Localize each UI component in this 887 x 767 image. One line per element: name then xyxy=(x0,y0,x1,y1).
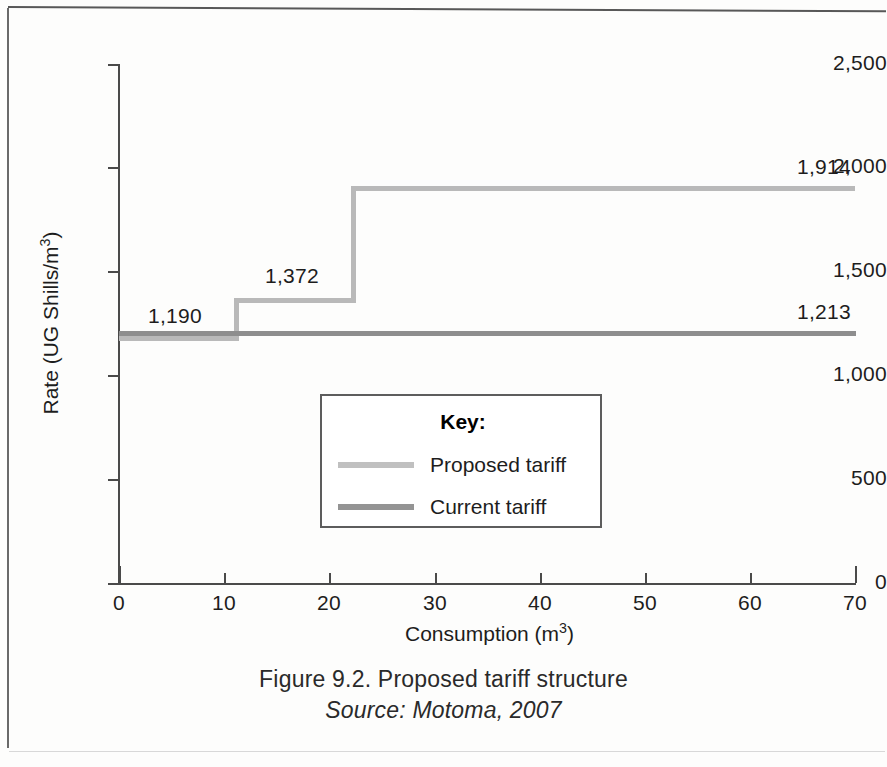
y-axis-title-suffix: ) xyxy=(39,232,62,239)
x-axis-title: Consumption (m3) xyxy=(0,620,887,646)
current-tariff-line xyxy=(119,331,856,336)
legend-entry-proposed-tariff: Proposed tariff xyxy=(338,450,588,480)
y-axis-line xyxy=(118,64,120,584)
proposed-tariff-segment-tier2 xyxy=(234,298,353,303)
proposed-tariff-riser-tier2-tier3 xyxy=(351,186,356,303)
figure-caption-title: Figure 9.2. Proposed tariff structure xyxy=(0,666,887,693)
x-axis-tick-label-60: 60 xyxy=(720,591,780,615)
x-axis-tick-60 xyxy=(750,573,752,583)
data-label-proposed-tier3: 1,914 xyxy=(797,155,851,179)
x-axis-tick-label-40: 40 xyxy=(510,591,570,615)
x-axis-tick-70 xyxy=(855,566,857,583)
legend-box: Key: Proposed tariff Current tariff xyxy=(320,394,602,528)
y-axis-tick-label-500: 500 xyxy=(787,466,887,490)
data-label-current-flat: 1,213 xyxy=(797,300,851,324)
y-axis-tick-1500 xyxy=(108,271,118,273)
x-axis-tick-label-0: 0 xyxy=(89,591,149,615)
legend-entry-current-tariff: Current tariff xyxy=(338,492,588,522)
data-label-proposed-tier2: 1,372 xyxy=(265,264,319,288)
y-axis-tick-2500 xyxy=(108,64,118,66)
proposed-tariff-segment-tier3 xyxy=(351,186,855,191)
legend-title: Key: xyxy=(322,410,604,434)
y-axis-tick-0 xyxy=(108,583,118,585)
x-axis-tick-50 xyxy=(645,573,647,583)
figure-caption-source: Source: Motoma, 2007 xyxy=(0,697,887,724)
y-axis-tick-500 xyxy=(108,479,118,481)
y-axis-title: Rate (UG Shills/m3) xyxy=(37,103,63,543)
x-axis-tick-10 xyxy=(224,573,226,583)
y-axis-tick-label-1500: 1,500 xyxy=(787,258,887,282)
legend-swatch-proposed-tariff xyxy=(338,462,414,468)
figure-caption: Figure 9.2. Proposed tariff structure So… xyxy=(0,666,887,724)
y-axis-tick-label-1000: 1,000 xyxy=(787,362,887,386)
y-axis-title-text: Rate (UG Shills/m xyxy=(39,246,62,414)
proposed-tariff-segment-tier1 xyxy=(119,336,236,341)
figure-page: 0 500 1,000 1,500 2,000 2,500 0 10 20 30… xyxy=(0,0,887,767)
legend-label-current-tariff: Current tariff xyxy=(430,495,546,519)
x-axis-tick-20 xyxy=(329,573,331,583)
x-axis-tick-30 xyxy=(435,573,437,583)
y-axis-tick-2000 xyxy=(108,167,118,169)
x-axis-tick-label-20: 20 xyxy=(299,591,359,615)
y-axis-tick-1000 xyxy=(108,375,118,377)
legend-swatch-current-tariff xyxy=(338,504,414,510)
x-axis-title-text: Consumption (m xyxy=(405,622,559,645)
legend-label-proposed-tariff: Proposed tariff xyxy=(430,453,566,477)
x-axis-tick-0 xyxy=(119,566,121,583)
x-axis-title-suffix: ) xyxy=(567,622,574,645)
x-axis-title-exponent: 3 xyxy=(559,620,567,636)
data-label-proposed-tier1: 1,190 xyxy=(148,304,202,328)
y-axis-title-exponent: 3 xyxy=(37,239,53,247)
x-axis-tick-label-30: 30 xyxy=(405,591,465,615)
x-axis-tick-label-70: 70 xyxy=(825,591,885,615)
x-axis-line xyxy=(118,583,856,585)
chart-plot-area: 0 500 1,000 1,500 2,000 2,500 0 10 20 30… xyxy=(0,0,887,767)
x-axis-tick-40 xyxy=(540,573,542,583)
x-axis-tick-label-50: 50 xyxy=(615,591,675,615)
x-axis-tick-label-10: 10 xyxy=(194,591,254,615)
y-axis-tick-label-2500: 2,500 xyxy=(787,51,887,75)
